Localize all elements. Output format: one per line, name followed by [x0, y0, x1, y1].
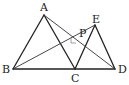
label-C: C [71, 72, 79, 85]
segment-AD [44, 15, 115, 69]
label-B: B [2, 63, 10, 76]
label-D: D [118, 63, 127, 76]
segment-ED [95, 25, 115, 69]
segment-AC [44, 15, 75, 69]
label-A: A [39, 1, 49, 14]
geometry-diagram: A B C D E P [0, 0, 129, 85]
label-E: E [92, 13, 100, 26]
label-P: P [79, 27, 87, 40]
